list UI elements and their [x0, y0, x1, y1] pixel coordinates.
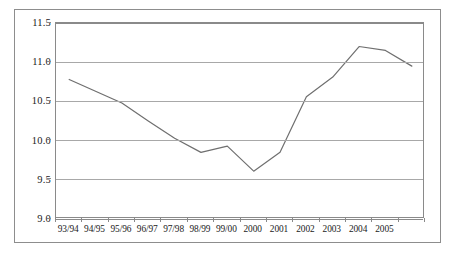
x-tick-label-94-95: 94/95	[84, 224, 105, 234]
x-tick-label-2001: 2001	[270, 224, 288, 234]
y-axis-labels: 9.09.510.010.511.011.5	[14, 22, 51, 218]
x-tick-label-98-99: 98/99	[190, 224, 211, 234]
x-axis-labels: 93/9494/9595/9696/9797/9898/9999/0020002…	[55, 222, 424, 242]
line-series-svg	[56, 23, 425, 219]
x-tick-label-99-00: 99/00	[216, 224, 237, 234]
x-tick-label-93-94: 93/94	[58, 224, 79, 234]
x-tick-mark	[424, 218, 425, 222]
x-tick-label-2003: 2003	[323, 224, 341, 234]
x-tick-label-95-96: 95/96	[110, 224, 131, 234]
x-tick-label-96-97: 96/97	[137, 224, 158, 234]
x-tick-label-97-98: 97/98	[163, 224, 184, 234]
x-tick-label-2005: 2005	[375, 224, 393, 234]
gridline-11-0	[56, 62, 423, 63]
y-tick-mark	[47, 178, 51, 179]
gridline-9-5	[56, 179, 423, 180]
chart-figure: 9.09.510.010.511.011.5 93/9494/9595/9696…	[0, 0, 453, 257]
gridline-10-0	[56, 140, 423, 141]
y-tick-mark	[47, 61, 51, 62]
line-series-path	[69, 47, 412, 172]
y-tick-mark	[47, 218, 51, 219]
y-tick-mark	[47, 100, 51, 101]
x-tick-label-2004: 2004	[349, 224, 367, 234]
y-tick-mark	[47, 139, 51, 140]
x-tick-label-2000: 2000	[243, 224, 261, 234]
gridline-10-5	[56, 101, 423, 102]
gridline-11-5	[56, 23, 423, 24]
y-tick-mark	[47, 22, 51, 23]
plot-area	[55, 22, 424, 218]
x-tick-label-2002: 2002	[296, 224, 314, 234]
